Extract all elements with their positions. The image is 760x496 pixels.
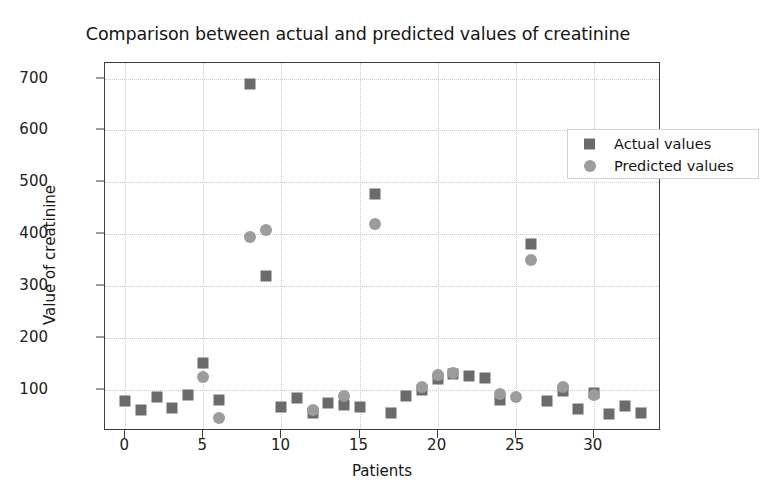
gridline-x-10 xyxy=(281,63,282,429)
data-point-predicted xyxy=(588,389,600,401)
legend-item-actual: Actual values xyxy=(568,133,760,155)
gridline-y-700 xyxy=(105,79,659,80)
y-tick-mark-300 xyxy=(96,284,104,285)
x-tick-mark-15 xyxy=(359,430,360,438)
data-point-actual xyxy=(541,396,552,407)
data-point-predicted xyxy=(213,412,225,424)
y-tick-label-300: 300 xyxy=(0,276,48,294)
gridline-y-200 xyxy=(105,338,659,339)
data-point-predicted xyxy=(197,371,209,383)
data-point-predicted xyxy=(557,381,569,393)
x-tick-mark-30 xyxy=(593,430,594,438)
data-point-predicted xyxy=(416,381,428,393)
data-point-actual xyxy=(323,398,334,409)
data-point-actual xyxy=(260,270,271,281)
data-point-actual xyxy=(120,395,131,406)
y-tick-mark-500 xyxy=(96,181,104,182)
data-point-actual xyxy=(167,403,178,414)
chart-legend: Actual values Predicted values xyxy=(567,129,759,179)
data-point-actual xyxy=(182,389,193,400)
legend-item-predicted: Predicted values xyxy=(568,155,760,177)
data-point-actual xyxy=(479,373,490,384)
data-point-actual xyxy=(214,394,225,405)
y-tick-mark-100 xyxy=(96,388,104,389)
x-tick-mark-0 xyxy=(124,430,125,438)
data-point-actual xyxy=(151,392,162,403)
data-point-actual xyxy=(604,409,615,420)
data-point-actual xyxy=(292,392,303,403)
data-point-actual xyxy=(276,402,287,413)
gridline-x-0 xyxy=(125,63,126,429)
gridline-x-30 xyxy=(594,63,595,429)
x-tick-mark-25 xyxy=(515,430,516,438)
data-point-actual xyxy=(354,401,365,412)
gridline-x-15 xyxy=(360,63,361,429)
legend-label-predicted: Predicted values xyxy=(614,158,734,174)
data-point-predicted xyxy=(432,369,444,381)
gridline-y-300 xyxy=(105,286,659,287)
data-point-predicted xyxy=(447,367,459,379)
data-point-actual xyxy=(198,357,209,368)
data-point-actual xyxy=(135,405,146,416)
data-point-actual xyxy=(463,371,474,382)
x-tick-label-15: 15 xyxy=(339,436,379,454)
legend-label-actual: Actual values xyxy=(614,136,711,152)
data-point-actual xyxy=(620,401,631,412)
data-point-actual xyxy=(401,390,412,401)
x-tick-label-10: 10 xyxy=(260,436,300,454)
data-point-actual xyxy=(635,407,646,418)
x-tick-mark-10 xyxy=(280,430,281,438)
x-tick-label-30: 30 xyxy=(573,436,613,454)
data-point-predicted xyxy=(244,231,256,243)
data-point-actual xyxy=(245,78,256,89)
legend-marker-circle-icon xyxy=(584,160,596,172)
y-tick-label-700: 700 xyxy=(0,69,48,87)
data-point-predicted xyxy=(307,404,319,416)
x-tick-mark-5 xyxy=(202,430,203,438)
data-point-predicted xyxy=(525,254,537,266)
plot-area: Actual values Predicted values xyxy=(104,62,660,430)
data-point-predicted xyxy=(260,224,272,236)
data-point-predicted xyxy=(369,218,381,230)
y-tick-mark-400 xyxy=(96,233,104,234)
x-axis-label: Patients xyxy=(104,462,660,480)
y-tick-mark-600 xyxy=(96,129,104,130)
y-tick-mark-200 xyxy=(96,336,104,337)
data-point-actual xyxy=(526,239,537,250)
data-point-predicted xyxy=(338,390,350,402)
data-point-actual xyxy=(370,188,381,199)
data-point-predicted xyxy=(510,391,522,403)
y-tick-mark-700 xyxy=(96,77,104,78)
y-tick-label-600: 600 xyxy=(0,120,48,138)
x-tick-label-0: 0 xyxy=(104,436,144,454)
data-point-actual xyxy=(573,404,584,415)
chart-title: Comparison between actual and predicted … xyxy=(0,24,716,44)
y-tick-label-100: 100 xyxy=(0,380,48,398)
data-point-predicted xyxy=(494,388,506,400)
x-tick-mark-20 xyxy=(437,430,438,438)
y-tick-label-200: 200 xyxy=(0,328,48,346)
x-tick-label-5: 5 xyxy=(182,436,222,454)
gridline-y-400 xyxy=(105,234,659,235)
data-point-actual xyxy=(385,408,396,419)
x-tick-label-25: 25 xyxy=(495,436,535,454)
y-tick-label-400: 400 xyxy=(0,224,48,242)
legend-marker-square-icon xyxy=(584,139,595,150)
gridline-x-25 xyxy=(516,63,517,429)
x-tick-label-20: 20 xyxy=(417,436,457,454)
y-tick-label-500: 500 xyxy=(0,172,48,190)
gridline-y-500 xyxy=(105,182,659,183)
